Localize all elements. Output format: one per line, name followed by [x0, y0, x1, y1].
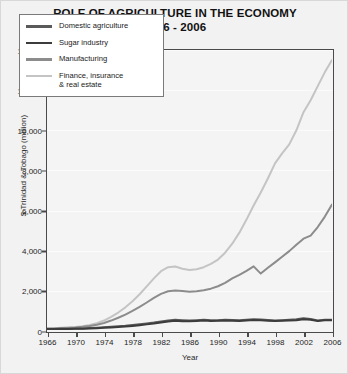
legend-color-swatch	[26, 58, 52, 61]
legend-color-swatch	[26, 42, 52, 45]
legend-label: Finance, insurance & real estate	[59, 71, 123, 90]
x-axis-label: Year	[46, 353, 334, 362]
x-axis-tick-mark	[105, 333, 107, 337]
series-line	[47, 205, 332, 329]
x-axis-tick-mark	[219, 333, 221, 337]
legend-label: Manufacturing	[59, 54, 107, 64]
legend-item[interactable]: Domestic agriculture	[26, 21, 157, 31]
x-axis-tick-mark	[133, 333, 135, 337]
chart-legend: Domestic agricultureSugar industryManufa…	[19, 14, 164, 97]
legend-label: Sugar industry	[59, 38, 108, 48]
legend-color-swatch	[26, 75, 52, 78]
x-axis-tick-mark	[76, 333, 78, 337]
legend-item[interactable]: Manufacturing	[26, 54, 157, 64]
legend-label: Domestic agriculture	[59, 21, 128, 31]
x-axis-tick-mark	[276, 333, 278, 337]
x-axis-tick-mark	[247, 333, 249, 337]
legend-item[interactable]: Sugar industry	[26, 38, 157, 48]
x-axis-tick-mark	[304, 333, 306, 337]
x-axis-tick-mark	[162, 333, 164, 337]
legend-item[interactable]: Finance, insurance & real estate	[26, 71, 157, 90]
x-axis-tick-labels: 1966197019741978198219861990199419982002…	[46, 338, 334, 350]
chart-figure: ROLE OF AGRICULTURE IN THE ECONOMY 1966 …	[0, 0, 348, 374]
legend-color-swatch	[26, 25, 52, 28]
x-axis-tick-mark	[48, 333, 50, 337]
x-axis-tick-mark	[190, 333, 192, 337]
x-axis-tick-label: 2006	[313, 338, 348, 347]
series-line	[47, 60, 332, 328]
x-axis-tick-mark	[333, 333, 335, 337]
